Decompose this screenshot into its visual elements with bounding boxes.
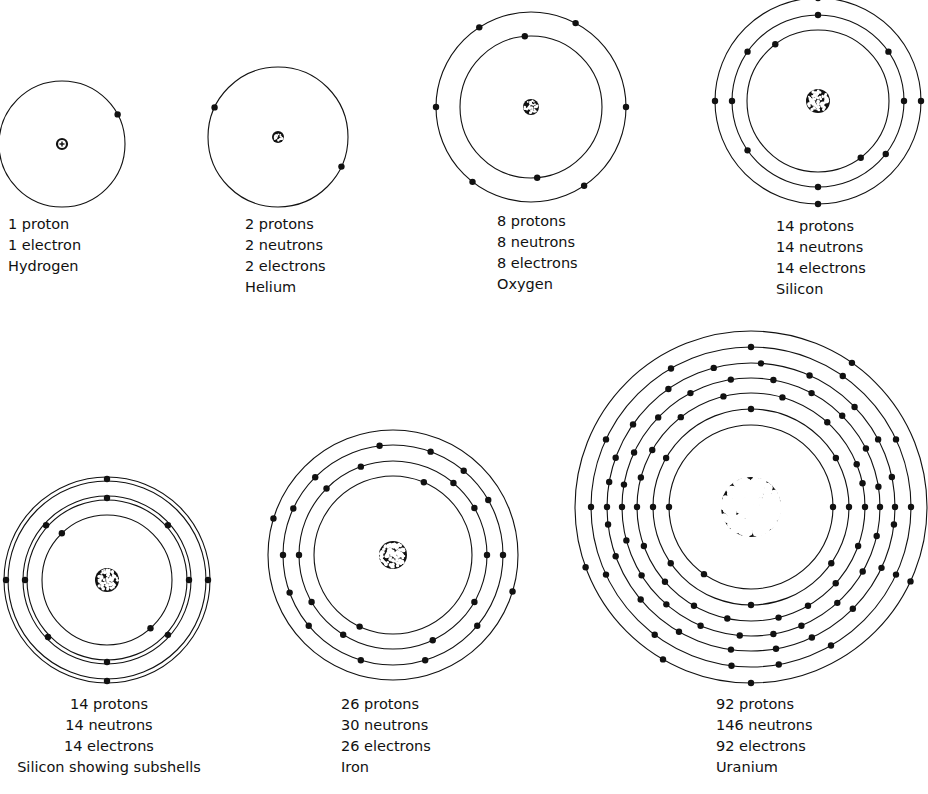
electron-dot [147, 625, 153, 631]
electron-dot [660, 656, 666, 662]
electron-dot [676, 629, 682, 635]
electron-dot [858, 155, 864, 161]
nucleus-icon [806, 89, 830, 113]
electron-dot [748, 680, 754, 686]
electron-dot [509, 588, 515, 594]
electron-dot [619, 504, 625, 510]
electron-dot [772, 41, 778, 47]
particle-count: 8 protons [497, 211, 578, 232]
particle-count: 14 protons [14, 694, 204, 715]
electron-dot [724, 615, 730, 621]
electron-dot [358, 463, 364, 469]
electron-dot [668, 560, 674, 566]
electron-dot [641, 543, 647, 549]
particle-count: 14 electrons [14, 736, 204, 757]
electron-dot [815, 12, 821, 18]
electron-dot [469, 179, 475, 185]
element-name: Hydrogen [8, 256, 81, 277]
electron-dot [901, 98, 907, 104]
electron-dot [114, 111, 120, 117]
atom-oxygen [433, 12, 629, 202]
electron-dot [893, 571, 899, 577]
electron-dot [809, 634, 815, 640]
particle-count: 1 electron [8, 235, 81, 256]
electron-dot [630, 421, 636, 427]
electron-dot [833, 455, 839, 461]
electron-dot [907, 578, 913, 584]
atom-hydrogen [0, 81, 125, 207]
electron-dot [885, 48, 891, 54]
electron-dot [312, 474, 318, 480]
particle-count: 30 neutrons [341, 715, 431, 736]
electron-dot [205, 577, 211, 583]
electron-dot [422, 657, 428, 663]
element-name: Silicon showing subshells [14, 757, 204, 778]
electron-dot [476, 24, 482, 30]
electron-dot [862, 504, 868, 510]
electron-dot [376, 443, 382, 449]
element-name: Iron [341, 757, 431, 778]
electron-dot [828, 560, 834, 566]
electron-dot [43, 522, 49, 528]
electron-dot [296, 552, 302, 558]
electron-dot [748, 344, 754, 350]
electron-dot [471, 505, 477, 511]
electron-dot [338, 163, 344, 169]
electron-dot [853, 461, 859, 467]
electron-dot [522, 33, 528, 39]
electron-dot [728, 376, 734, 382]
nucleus-icon [272, 131, 284, 143]
electron-dot [668, 365, 674, 371]
electron-dot [534, 175, 540, 181]
atom-label-iron: 26 protons30 neutrons26 electronsIron [341, 694, 431, 778]
electron-dot [22, 577, 28, 583]
electron-dot [697, 623, 703, 629]
electron-dot [815, 0, 821, 1]
electron-dot [104, 476, 110, 482]
electron-dot [605, 521, 611, 527]
electron-dot [500, 552, 506, 558]
atom-label-uranium: 92 protons146 neutrons92 electronsUraniu… [716, 694, 813, 778]
particle-count: 2 neutrons [245, 235, 326, 256]
electron-dot [748, 602, 754, 608]
electron-dot [808, 390, 814, 396]
nucleus-icon [57, 139, 67, 149]
electron-dot [758, 360, 764, 366]
electron-dot [484, 552, 490, 558]
atom-label-silicon-subshells: 14 protons14 neutrons14 electronsSilicon… [14, 694, 204, 778]
electron-dot [873, 533, 879, 539]
electron-dot [649, 447, 655, 453]
electron-dot [655, 414, 661, 420]
particle-count: 146 neutrons [716, 715, 813, 736]
electron-dot [691, 603, 697, 609]
electron-dot [45, 634, 51, 640]
nucleus-icon [95, 568, 119, 592]
electron-dot [711, 365, 717, 371]
electron-dot [623, 104, 629, 110]
electron-dot [308, 599, 314, 605]
electron-dot [839, 413, 845, 419]
particle-count: 8 electrons [497, 253, 578, 274]
electron-dot [893, 436, 899, 442]
nucleus-icon [379, 541, 407, 569]
particle-count: 1 proton [8, 214, 81, 235]
electron-dot [603, 571, 609, 577]
electron-dot [908, 504, 914, 510]
electron-dot [720, 393, 726, 399]
electron-dot [572, 20, 578, 26]
atom-uranium [575, 331, 927, 686]
electron-dot [744, 147, 750, 153]
electron-dot [104, 678, 110, 684]
electron-dot [779, 394, 785, 400]
atom-label-helium: 2 protons2 neutrons2 electronsHelium [245, 214, 326, 298]
electron-dot [729, 98, 735, 104]
electron-dot [918, 98, 924, 104]
particle-count: 26 electrons [341, 736, 431, 757]
electron-dot [860, 568, 866, 574]
particle-count: 26 protons [341, 694, 431, 715]
electron-dot [612, 553, 618, 559]
electron-dot [606, 479, 612, 485]
atom-silicon-subshells [3, 476, 211, 684]
electron-dot [652, 632, 658, 638]
electron-dot [623, 537, 629, 543]
